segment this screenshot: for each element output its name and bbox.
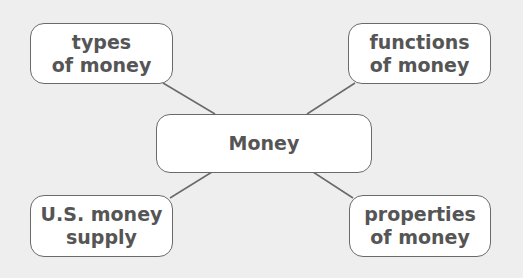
node-label-line-2: of money	[370, 54, 470, 77]
node-us-money-supply: U.S. money supply	[30, 195, 173, 257]
connector-bottom-left	[170, 172, 212, 198]
connector-top-left	[163, 83, 215, 114]
center-label: Money	[229, 132, 300, 155]
node-label-line-1: types	[72, 31, 131, 54]
node-label-line-1: functions	[369, 31, 469, 54]
node-types-of-money: types of money	[30, 23, 173, 84]
node-label-line-2: of money	[370, 226, 470, 249]
concept-map: types of money functions of money Money …	[0, 0, 523, 278]
node-label-line-2: of money	[52, 54, 152, 77]
node-label-line-1: properties	[364, 203, 476, 226]
connector-bottom-right	[313, 172, 353, 198]
node-label-line-2: supply	[66, 226, 137, 249]
node-label-line-1: U.S. money	[41, 203, 163, 226]
node-properties-of-money: properties of money	[349, 195, 491, 257]
connector-top-right	[307, 83, 355, 114]
node-functions-of-money: functions of money	[348, 23, 491, 84]
node-money-center: Money	[156, 114, 372, 173]
